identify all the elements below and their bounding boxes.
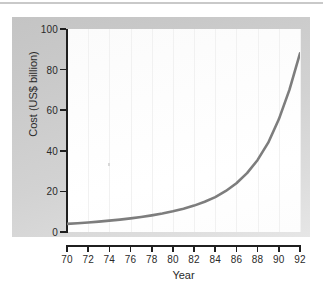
top-divider-rule — [0, 2, 323, 4]
x-axis-tick — [151, 246, 153, 252]
y-axis-tick — [60, 109, 66, 111]
x-axis-tick-label: 92 — [288, 254, 312, 265]
cost-curve — [67, 53, 300, 224]
y-axis-tick — [60, 28, 66, 30]
x-axis-tick — [236, 246, 238, 252]
x-axis-tick — [109, 246, 111, 252]
y-axis-tick — [60, 69, 66, 71]
y-axis-tick-label: 0 — [28, 227, 58, 238]
x-axis-line — [66, 245, 301, 247]
y-axis-tick — [60, 231, 66, 233]
x-axis-tick — [130, 246, 132, 252]
cost-line-series — [67, 29, 300, 232]
x-axis-tick — [214, 246, 216, 252]
x-axis-tick — [193, 246, 195, 252]
y-axis-title: Cost (US$ billion) — [27, 14, 39, 174]
x-axis-tick — [66, 246, 68, 252]
vertical-gridline — [300, 29, 301, 232]
figure-container: 020406080100 707274767880828486889092 Co… — [0, 0, 323, 290]
x-axis-tick — [299, 246, 301, 252]
x-axis-tick — [257, 246, 259, 252]
y-axis-tick-label: 20 — [28, 186, 58, 197]
x-axis-tick — [278, 246, 280, 252]
y-axis-tick — [60, 191, 66, 193]
y-axis-tick — [60, 150, 66, 152]
x-axis-tick — [87, 246, 89, 252]
x-axis-title: Year — [66, 269, 301, 281]
x-axis-tick — [172, 246, 174, 252]
